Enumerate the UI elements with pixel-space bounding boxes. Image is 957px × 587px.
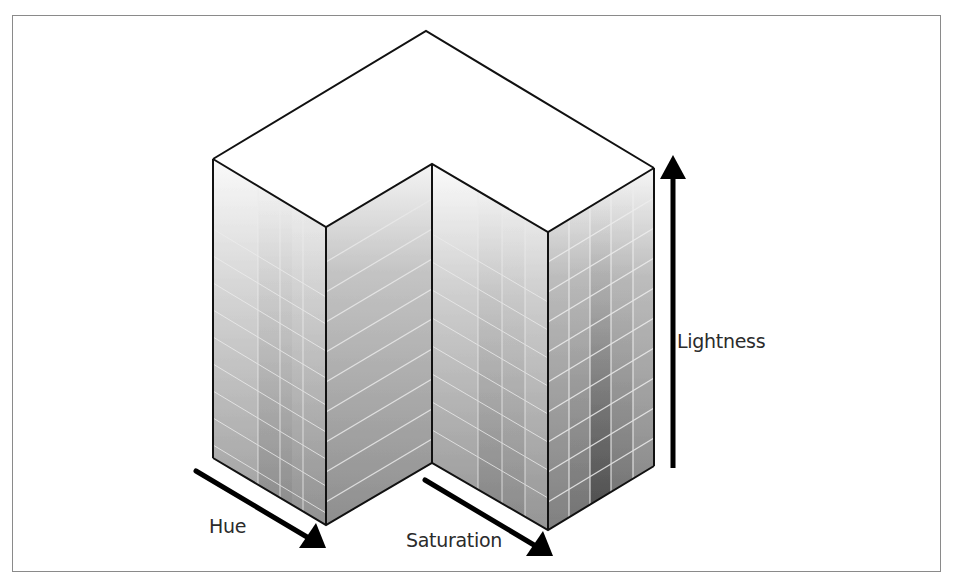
lightness-label: Lightness <box>677 330 765 352</box>
hsl-solid-diagram: Hue Saturation Lightness <box>0 0 957 587</box>
lightness-arrowhead-icon <box>660 155 686 179</box>
lightness-axis-arrow <box>660 155 686 468</box>
saturation-label: Saturation <box>406 529 502 551</box>
hue-label: Hue <box>209 515 246 537</box>
